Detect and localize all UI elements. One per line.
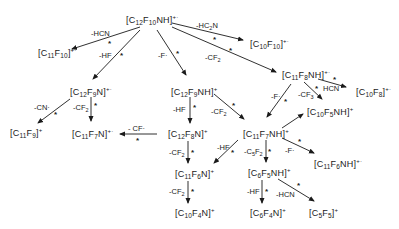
node-c11f7n: [C11F7N]+· <box>72 128 113 141</box>
node-c10f4n: [C10F4N]+ <box>175 207 215 220</box>
label-minus-hf-1: -HF <box>99 52 112 60</box>
metastable-marker: * <box>193 104 196 112</box>
node-c11f7nh: [C11F7NH]+ <box>243 128 289 141</box>
node-c12f8n: [C12F8N]+ <box>168 128 208 141</box>
label-minus-f-2: -F· <box>271 93 281 101</box>
node-c5f5: [C5F5]+ <box>309 207 338 220</box>
node-c11f6nh: [C11F6NH]+· <box>314 158 362 171</box>
label-minus-hcn-3: -HCN <box>276 191 295 199</box>
metastable-marker: * <box>229 47 232 55</box>
label-minus-c5f2: -C5F2 <box>244 148 263 158</box>
label-minus-cn: -CN· <box>34 104 50 112</box>
label-hcn-2: HCN <box>323 85 339 93</box>
metastable-marker: * <box>333 76 336 84</box>
node-c10f5nh: [C10F5NH]+ <box>307 106 353 119</box>
metastable-marker: * <box>176 50 179 58</box>
metastable-marker: * <box>232 102 235 110</box>
metastable-marker: * <box>231 149 234 157</box>
label-minus-f-3: -F· <box>285 147 295 155</box>
label-minus-cf2-1: -CF2 <box>205 54 221 64</box>
metastable-marker: * <box>315 85 318 93</box>
metastable-marker: * <box>268 148 271 156</box>
metastable-marker: * <box>265 188 268 196</box>
label-minus-hf-2: -HF <box>173 106 186 114</box>
label-minus-cf2-3: -CF2 <box>211 108 227 118</box>
metastable-marker: * <box>94 102 97 110</box>
node-c10f8: [C10F8]+· <box>356 86 391 99</box>
node-c11f6n: [C11F6N]+ <box>175 168 214 181</box>
metastable-marker: * <box>213 36 216 44</box>
node-c11f9: [C11F9]+ <box>10 127 43 140</box>
label-minus-cf2-4: -CF2 <box>169 149 185 159</box>
node-c12f10nh: [C12F10NH]+· <box>126 14 178 27</box>
node-c12f9n: [C12F9N]+· <box>70 86 112 99</box>
metastable-marker: * <box>298 138 301 146</box>
metastable-marker: * <box>120 52 123 60</box>
metastable-marker: * <box>284 98 287 106</box>
label-minus-cf2-5: -CF2 <box>169 188 185 198</box>
metastable-marker: * <box>191 188 194 196</box>
arrow-c11f7nh-c10f5nh <box>282 114 303 128</box>
label-minus-cf2-2: -CF2 <box>73 104 89 114</box>
node-c11f8nh: [C11F8NH]+· <box>282 69 330 82</box>
label-minus-hc2n: -HC2N <box>196 22 218 32</box>
metastable-marker: * <box>297 182 300 190</box>
node-c10f10: [C10F10]+· <box>250 38 289 51</box>
label-minus-cf3: -CF3 <box>298 91 314 101</box>
metastable-marker: * <box>54 111 57 119</box>
metastable-marker: * <box>191 149 194 157</box>
node-c6f5nh: [C6F5NH]+ <box>248 167 291 180</box>
metastable-marker: * <box>108 40 111 48</box>
label-minus-f-1: -F· <box>158 52 168 60</box>
node-c6f4n: [C6F4N]+ <box>250 207 286 220</box>
node-c11f10: [C11F10]+· <box>38 47 77 60</box>
label-minus-cf: - CF· <box>128 125 145 133</box>
metastable-marker: * <box>136 137 139 145</box>
label-minus-hf-4: -HF <box>247 188 260 196</box>
label-minus-hf-3: -HF <box>217 144 230 152</box>
node-c12f9nh: [C12F9NH]+ <box>171 86 217 99</box>
label-minus-hcn-1: -HCN <box>91 30 110 38</box>
